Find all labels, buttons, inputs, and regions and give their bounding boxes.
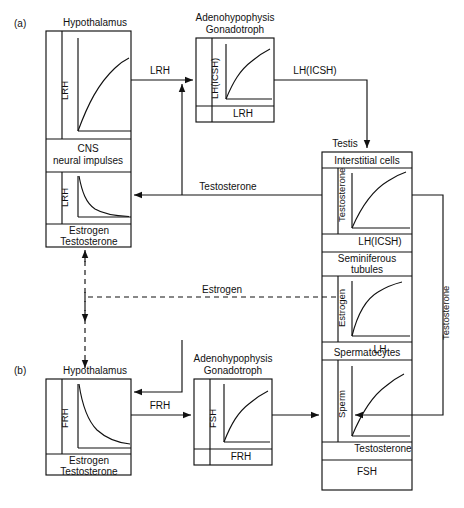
- testis-spermatocytes-header: Spermatocytes: [334, 347, 401, 358]
- panel-b-hypothalamus-title: Hypothalamus: [63, 365, 127, 376]
- panel-a-pituitary-curve: [226, 49, 270, 99]
- panel-a-top-curve: [78, 58, 129, 131]
- panel-b-hypothalamus-ylabel: FRH: [60, 408, 70, 428]
- panel-b-marker: (b): [14, 365, 26, 376]
- testis-interstitial-ylabel: Testosterone: [337, 168, 347, 222]
- label-estrogen-dashed: Estrogen: [202, 284, 242, 295]
- panel-b-hypothalamus-curve: [79, 384, 130, 444]
- arrow-into-panel-b-hypothalamus: [134, 340, 182, 392]
- testis-seminiferous-ylabel: Estrogen: [337, 289, 347, 327]
- testis-seminiferous-header-line1: Seminiferous: [338, 253, 396, 264]
- panel-a-bottom-chart-ylabel: LRH: [60, 188, 70, 207]
- panel-a-pituitary-title-line1: Adenohypophysis: [196, 12, 275, 23]
- panel-b-hypothalamus-xlabel-line2: Testosterone: [60, 466, 117, 477]
- cns-label-line1: CNS: [77, 143, 98, 154]
- panel-a-pituitary-ylabel: LH(ICSH): [210, 58, 220, 99]
- testis-seminiferous-header-line2: tubules: [351, 264, 383, 275]
- panel-a-hypothalamus-box: [46, 31, 131, 247]
- panel-b-pituitary-title-line1: Adenohypophysis: [194, 353, 273, 364]
- testis-interstitial-xlabel: LH(ICSH): [358, 236, 401, 247]
- testis-seminiferous-curve: [352, 282, 402, 336]
- label-testosterone-feedback: Testosterone: [199, 181, 256, 192]
- panel-b-hypothalamus-xlabel-line1: Estrogen: [69, 455, 109, 466]
- testis-title: Testis: [332, 138, 358, 149]
- panel-a-pituitary-xlabel: LRH: [233, 108, 253, 119]
- panel-b-pituitary-xlabel: FRH: [231, 451, 252, 462]
- panel-a-marker: (a): [14, 18, 26, 29]
- testis-interstitial-curve: [352, 172, 406, 228]
- panel-a-pituitary-title-line2: Gonadotroph: [206, 24, 264, 35]
- testis-spermatocytes-xlabel: Testosterone: [354, 443, 411, 454]
- testis-spermatocytes-ylabel: Sperm: [337, 390, 347, 418]
- panel-a-hypothalamus-xlabel-line1: Estrogen: [69, 225, 109, 236]
- cns-label-line2: neural impulses: [53, 155, 123, 166]
- label-arrow-lh-icsh: LH(ICSH): [293, 65, 336, 76]
- testis-interstitial-header: Interstitial cells: [334, 155, 400, 166]
- testis-spermatocyte-curve: [352, 374, 404, 436]
- panel-b-pituitary-title-line2: Gonadotroph: [204, 365, 262, 376]
- panel-a-top-chart-ylabel: LRH: [60, 81, 70, 100]
- panel-b-pituitary-curve: [224, 391, 268, 442]
- label-arrow-lrh: LRH: [150, 65, 170, 76]
- panel-a-hypothalamus-xlabel-line2: Testosterone: [60, 236, 117, 247]
- testis-fsh-footer: FSH: [357, 466, 377, 477]
- label-testosterone-right: Testosterone: [441, 286, 451, 340]
- panel-b-pituitary-ylabel: FSH: [208, 409, 218, 428]
- panel-a-hypothalamus-title: Hypothalamus: [63, 17, 127, 28]
- figure-canvas: (a) (b) Hypothalamus LRH CNS neural impu…: [0, 0, 464, 508]
- panel-a-bottom-curve: [79, 176, 129, 217]
- label-arrow-frh: FRH: [150, 400, 171, 411]
